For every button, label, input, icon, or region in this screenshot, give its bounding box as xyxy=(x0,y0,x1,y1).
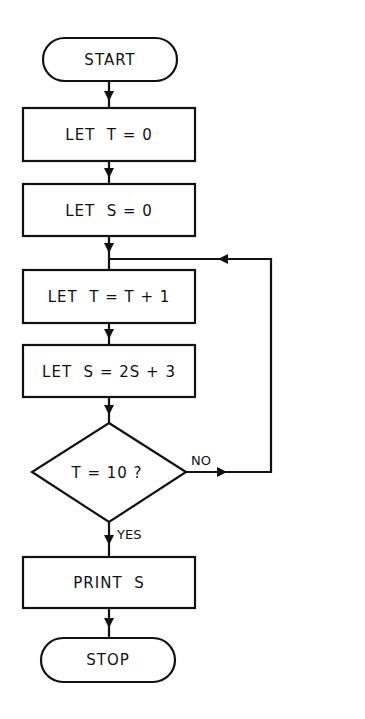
node-label: PRINT S xyxy=(73,574,144,592)
arrow-left-icon xyxy=(218,254,228,264)
arrow-down-icon xyxy=(104,329,114,339)
node-init-t: LET T = 0 xyxy=(23,108,195,161)
node-check: T = 10 ? xyxy=(32,423,186,522)
node-init-s: LET S = 0 xyxy=(23,184,195,236)
arrow-down-icon xyxy=(104,405,114,415)
node-label: LET S = 0 xyxy=(65,202,153,220)
arrow-down-icon xyxy=(104,618,114,628)
node-start: START xyxy=(43,38,177,81)
arrow-down-icon xyxy=(104,168,114,178)
node-label: LET T = 0 xyxy=(65,126,152,144)
node-print: PRINT S xyxy=(23,557,195,608)
arrow-down-icon xyxy=(104,535,114,545)
edge-label-no: NO xyxy=(191,453,211,468)
node-label: LET T = T + 1 xyxy=(48,288,171,306)
arrow-down-icon xyxy=(104,91,114,101)
flowchart: START LET T = 0 LET S = 0 LET T = T + 1 … xyxy=(0,0,365,719)
node-stop: STOP xyxy=(41,638,175,682)
node-inc-t: LET T = T + 1 xyxy=(23,270,195,323)
node-label: STOP xyxy=(86,651,130,669)
node-label: LET S = 2S + 3 xyxy=(42,363,176,381)
node-label: T = 10 ? xyxy=(70,464,142,482)
arrow-down-icon xyxy=(104,243,114,253)
edge-label-yes: YES xyxy=(116,527,141,542)
node-calc-s: LET S = 2S + 3 xyxy=(23,345,195,397)
node-label: START xyxy=(84,51,135,69)
arrow-right-icon xyxy=(217,467,227,477)
